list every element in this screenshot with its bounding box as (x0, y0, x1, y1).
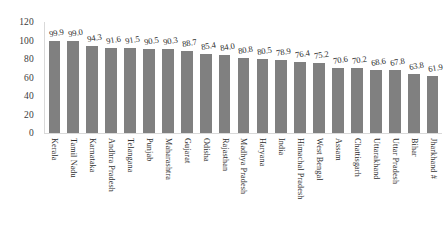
y-axis-tick-label: 60 (24, 73, 34, 83)
x-axis-tick-label: Uttarakhand (371, 138, 380, 180)
x-axis-label-slot: Odisha (196, 136, 215, 230)
bar[interactable] (67, 41, 79, 133)
x-axis-label-slot: Telangana (121, 136, 140, 230)
bar-slot: 76.4 (294, 22, 306, 133)
bar-value-label: 90.5 (143, 35, 159, 47)
y-axis-tick-label: 120 (19, 17, 34, 27)
bar-slot: 63.8 (408, 22, 420, 133)
bar-value-label: 70.6 (332, 53, 348, 65)
bar-value-label: 61.9 (427, 61, 443, 73)
bar[interactable] (143, 49, 155, 133)
x-axis-tick-label: Maharashtra (163, 138, 172, 180)
bar[interactable] (124, 48, 136, 133)
bar[interactable] (257, 59, 269, 133)
y-axis-tick-label: 20 (24, 110, 34, 120)
x-axis-tick-label: Chattisgarh (352, 138, 361, 177)
x-axis-tick-label: India (277, 138, 286, 155)
bar-value-label: 70.2 (351, 54, 367, 66)
bar[interactable] (105, 48, 117, 133)
bar-chart: 020406080100120 99.999.094.391.691.590.5… (0, 0, 444, 230)
bar-slot: 99.0 (67, 22, 79, 133)
x-axis-tick-label: Odisha (201, 138, 210, 162)
bar-value-label: 76.4 (294, 48, 310, 60)
x-axis-label-slot: Rajasthan (215, 136, 234, 230)
bar[interactable] (238, 58, 250, 133)
x-axis-tick-label: Gujarat (182, 138, 191, 163)
bar-value-label: 88.7 (181, 37, 197, 49)
x-axis-label-slot: Punjab (140, 136, 159, 230)
y-axis-tick-label: 100 (19, 36, 34, 46)
x-axis-label-slot: Jharkhand # (423, 136, 442, 230)
x-axis-tick-label: West Bengal (315, 138, 324, 181)
bar-slot: 91.6 (105, 22, 117, 133)
bar-slot: 88.7 (181, 22, 193, 133)
bar-value-label: 99.9 (49, 26, 65, 38)
x-axis-tick-label: Haryana (258, 138, 267, 166)
bar[interactable] (332, 68, 344, 133)
plot-area: 99.999.094.391.691.590.590.388.785.484.0… (45, 22, 442, 133)
bar[interactable] (200, 54, 212, 133)
y-axis-tick-label: 40 (24, 91, 34, 101)
bar-value-label: 94.3 (87, 31, 103, 43)
bar-value-label: 80.5 (257, 44, 273, 56)
bar-slot: 85.4 (200, 22, 212, 133)
bar-slot: 91.5 (124, 22, 136, 133)
bar-slot: 80.8 (238, 22, 250, 133)
x-axis-label-slot: Uttar Pradesh (385, 136, 404, 230)
bar-value-label: 63.8 (408, 60, 424, 72)
x-axis-label-slot: Gujarat (177, 136, 196, 230)
bar-slot: 67.8 (389, 22, 401, 133)
y-axis-tick-label: 80 (24, 54, 34, 64)
bar-slot: 94.3 (86, 22, 98, 133)
x-axis-label-slot: Bihar (404, 136, 423, 230)
bar-value-label: 91.5 (124, 34, 140, 46)
x-axis-tick-label: Madhya Pradesh (239, 138, 248, 194)
x-axis-category-labels: KeralaTamil NaduKarnatakaAndhra PradeshT… (45, 136, 442, 230)
bar[interactable] (294, 62, 306, 133)
bar[interactable] (351, 68, 363, 133)
bar[interactable] (313, 63, 325, 133)
x-axis-tick-label: Karnataka (88, 138, 97, 173)
bar[interactable] (427, 76, 439, 133)
x-axis-label-slot: Maharashtra (158, 136, 177, 230)
bar[interactable] (49, 41, 61, 133)
bar-value-label: 84.0 (219, 41, 235, 53)
x-axis-tick-label: Assam (334, 138, 343, 161)
bar-slot: 68.6 (370, 22, 382, 133)
bar-value-label: 85.4 (200, 40, 216, 52)
bar[interactable] (389, 70, 401, 133)
x-axis-label-slot: Andhra Pradesh (102, 136, 121, 230)
bar[interactable] (181, 51, 193, 133)
x-axis-line (44, 133, 442, 134)
bar-value-label: 68.6 (370, 55, 386, 67)
x-axis-label-slot: India (272, 136, 291, 230)
bar-value-label: 78.9 (276, 46, 292, 58)
x-axis-label-slot: Tamil Nadu (64, 136, 83, 230)
bar-value-label: 80.8 (238, 44, 254, 56)
bar-slot: 70.6 (332, 22, 344, 133)
bar[interactable] (370, 70, 382, 133)
bar[interactable] (219, 55, 231, 133)
bar-slot: 61.9 (427, 22, 439, 133)
bar-value-label: 75.2 (313, 49, 329, 61)
x-axis-label-slot: Kerala (45, 136, 64, 230)
x-axis-label-slot: Karnataka (83, 136, 102, 230)
x-axis-tick-label: Uttar Pradesh (390, 138, 399, 184)
bar[interactable] (275, 60, 287, 133)
bar-slot: 90.5 (143, 22, 155, 133)
x-axis-tick-label: Jharkhand # (428, 138, 437, 179)
x-axis-label-slot: Himachal Pradesh (291, 136, 310, 230)
bar-slot: 75.2 (313, 22, 325, 133)
bar-value-label: 99.0 (68, 27, 84, 39)
bar-value-label: 67.8 (389, 56, 405, 68)
x-axis-tick-label: Tamil Nadu (69, 138, 78, 178)
bar[interactable] (408, 74, 420, 133)
bar[interactable] (86, 46, 98, 133)
x-axis-label-slot: Chattisgarh (347, 136, 366, 230)
x-axis-label-slot: West Bengal (310, 136, 329, 230)
bar-slot: 99.9 (49, 22, 61, 133)
bar-value-label: 90.3 (162, 35, 178, 47)
x-axis-label-slot: Uttarakhand (366, 136, 385, 230)
x-axis-tick-label: Himachal Pradesh (296, 138, 305, 199)
bar[interactable] (162, 49, 174, 133)
